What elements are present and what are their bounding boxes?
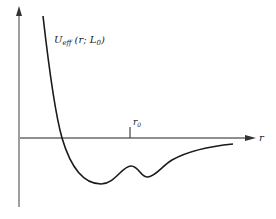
x-axis-arrow-icon: [245, 135, 256, 141]
y-axis-arrow-icon: [16, 6, 22, 16]
r0-label: r0: [133, 117, 141, 128]
x-axis-label: r: [259, 132, 265, 143]
potential-diagram: Ueff(r; L0) r0 r: [0, 0, 276, 219]
curve-label: Ueff(r; L0): [54, 34, 105, 47]
